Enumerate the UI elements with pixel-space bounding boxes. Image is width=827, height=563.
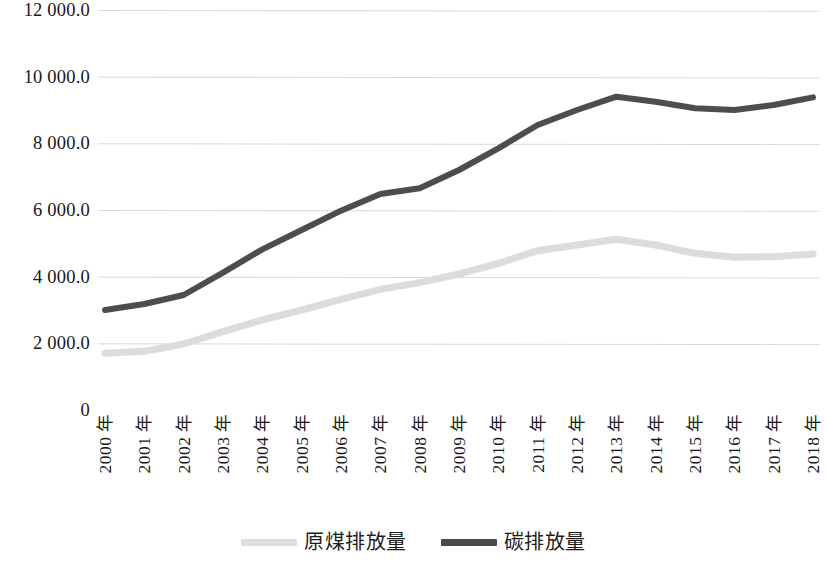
x-axis: 2000 年2001 年2002 年2003 年2004 年2005 年2006… [98,414,820,522]
legend-label: 碳排放量 [504,532,586,552]
x-axis-tick-label: 2002 年 [176,414,194,524]
y-axis-tick-label: 4 000.0 [33,268,90,287]
y-axis-tick-label: 10 000.0 [24,68,90,87]
y-axis: 12 000.010 000.08 000.06 000.04 000.02 0… [0,0,96,430]
x-axis-tick-label: 2003 年 [215,414,233,524]
x-axis-tick-label: 2007 年 [372,414,390,524]
line-chart: 12 000.010 000.08 000.06 000.04 000.02 0… [0,0,827,563]
y-axis-tick-label: 0 [81,401,90,420]
x-axis-tick-label: 2012 年 [569,414,587,524]
x-axis-tick-label: 2014 年 [648,414,666,524]
x-axis-tick-label: 2017 年 [766,414,784,524]
x-axis-tick-label: 2009 年 [451,414,469,524]
y-axis-tick-label: 12 000.0 [24,1,90,20]
x-axis-tick-label: 2010 年 [490,414,508,524]
x-axis-tick-label: 2018 年 [805,414,823,524]
x-axis-tick-label: 2001 年 [136,414,154,524]
x-axis-tick-label: 2011 年 [530,414,548,524]
gridline [98,11,820,12]
gridline [98,77,820,78]
gridline [98,144,820,145]
plot-svg [98,10,820,410]
legend-item[interactable]: 原煤排放量 [241,532,407,552]
plot-area [98,10,820,410]
x-axis-tick-label: 2013 年 [608,414,626,524]
gridline [98,211,820,212]
y-axis-tick-label: 6 000.0 [33,201,90,220]
chart-legend: 原煤排放量碳排放量 [0,524,827,560]
x-axis-tick-label: 2005 年 [294,414,312,524]
legend-swatch-icon [441,539,497,546]
x-axis-tick-label: 2000 年 [97,414,115,524]
x-axis-tick-label: 2016 年 [726,414,744,524]
x-axis-tick-label: 2008 年 [412,414,430,524]
y-axis-tick-label: 8 000.0 [33,134,90,153]
x-axis-tick-label: 2006 年 [333,414,351,524]
series-line-1 [105,239,813,353]
legend-swatch-icon [241,539,297,546]
gridlines [98,11,820,411]
x-axis-tick-label: 2015 年 [687,414,705,524]
legend-label: 原煤排放量 [304,532,407,552]
x-axis-tick-label: 2004 年 [254,414,272,524]
gridline [98,344,820,345]
y-axis-tick-label: 2 000.0 [33,334,90,353]
legend-item[interactable]: 碳排放量 [441,532,586,552]
series-lines [105,97,813,354]
